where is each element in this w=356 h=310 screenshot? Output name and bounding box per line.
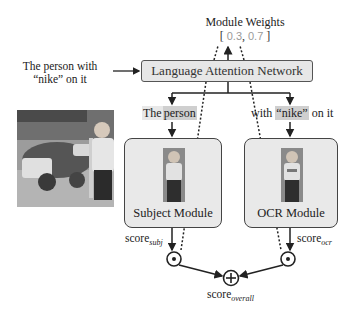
- subject-module-box: Subject Module: [124, 138, 222, 228]
- ocr-crop-image: [281, 148, 303, 202]
- subject-module-label: Subject Module: [125, 206, 221, 221]
- multiply-subject-icon: [167, 252, 181, 266]
- ocr-phrase-prefix: with: [251, 106, 272, 120]
- weight-subj-dotted: [214, 46, 218, 60]
- input-image: [17, 110, 114, 207]
- query-line-1: The person with: [8, 60, 112, 73]
- ocr-module-label: OCR Module: [245, 206, 337, 221]
- subject-phrase-highlight: person: [163, 106, 197, 120]
- subject-to-sum-arrow: [179, 265, 222, 276]
- score-subject-base: score: [125, 232, 149, 244]
- ocr-module-box: OCR Module: [244, 138, 338, 228]
- score-subject-sub: subj: [149, 238, 162, 247]
- multiply-ocr-icon: [281, 252, 295, 266]
- query-text: The person with “nike” on it: [8, 60, 112, 86]
- ocr-to-sum-arrow: [240, 265, 283, 276]
- score-overall: scoreoverall: [207, 288, 254, 305]
- ocr-phrase: with “nike” on it: [251, 106, 333, 121]
- score-overall-sub: overall: [231, 294, 254, 303]
- score-ocr-base: score: [297, 232, 321, 244]
- ocr-phrase-suffix: on it: [312, 106, 334, 120]
- bracket-open: [: [220, 29, 224, 43]
- score-overall-base: score: [207, 288, 231, 300]
- language-attention-network-box: Language Attention Network: [141, 60, 313, 82]
- score-subject: scoresubj: [125, 232, 163, 249]
- weight-subject: 0.3: [227, 30, 242, 42]
- weight-ocr-dotted: [240, 46, 244, 60]
- query-line-2: “nike” on it: [8, 73, 112, 86]
- module-weights-title: Module Weights: [180, 16, 310, 29]
- bracket-close: ]: [266, 29, 270, 43]
- subject-phrase-prefix: The: [142, 106, 163, 120]
- photo-motorcycle-child: [17, 110, 114, 207]
- ocr-phrase-highlight: “nike”: [275, 106, 308, 120]
- sum-icon: [224, 271, 239, 286]
- subject-crop-image: [163, 148, 185, 202]
- score-ocr-sub: ocr: [321, 238, 332, 247]
- module-weights-values: [ 0.3, 0.7 ]: [180, 30, 310, 43]
- subject-phrase: Theperson: [142, 106, 197, 121]
- weight-ocr: 0.7: [248, 30, 263, 42]
- weight-separator: ,: [242, 29, 245, 43]
- score-ocr: scoreocr: [297, 232, 332, 249]
